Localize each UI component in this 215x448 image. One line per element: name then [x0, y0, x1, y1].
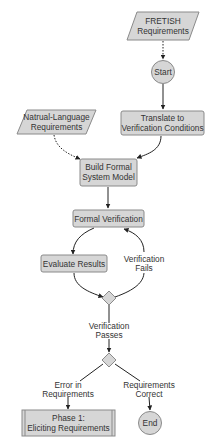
node-phase1-eliciting-requirements[interactable]: Phase 1: Eliciting Requirements: [22, 410, 115, 436]
edge-label-verification-passes: Verification Passes: [89, 321, 130, 340]
node-evaluate-results[interactable]: Evaluate Results: [41, 255, 107, 272]
error-in-requirements-line2: Requirements: [42, 389, 94, 399]
phase1-line2: Eliciting Requirements: [27, 423, 110, 433]
edge-formal-verification-to-evaluate: [73, 228, 94, 254]
end-label: End: [143, 418, 158, 428]
node-fretish-requirements[interactable]: FRETISH Requirements: [127, 12, 199, 40]
decision-diamond-1[interactable]: [102, 291, 116, 305]
edge-translate-to-build-model: [137, 136, 161, 158]
natural-language-line1: Natrual-Language: [23, 112, 90, 122]
phase1-line1: Phase 1:: [52, 413, 85, 423]
natural-language-line2: Requirements: [31, 122, 83, 132]
evaluate-results-label: Evaluate Results: [43, 259, 105, 269]
edge-label-requirements-correct: Requirements Correct: [123, 380, 175, 399]
edge-label-error-in-requirements: Error in Requirements: [42, 380, 94, 399]
edge-decision-2-to-error: [80, 364, 103, 381]
verification-passes-line2: Passes: [95, 330, 122, 340]
requirements-correct-line2: Correct: [135, 389, 163, 399]
formal-verification-label: Formal Verification: [74, 214, 143, 224]
edge-natural-language-to-build-model: [54, 135, 80, 159]
start-label: Start: [154, 67, 172, 77]
node-natural-language-requirements[interactable]: Natrual-Language Requirements: [17, 110, 96, 134]
edge-label-verification-fails: Verification Fails: [124, 254, 165, 273]
translate-line1: Translate to: [141, 113, 185, 123]
node-formal-verification[interactable]: Formal Verification: [73, 210, 144, 227]
node-start[interactable]: Start: [152, 61, 175, 84]
fretish-line1: FRETISH: [145, 16, 181, 26]
flowchart-canvas: FRETISH Requirements Start Translate to …: [0, 0, 215, 448]
node-build-formal-system-model[interactable]: Build Formal System Model: [80, 159, 137, 186]
fretish-line2: Requirements: [137, 26, 189, 36]
edge-decision-2-to-correct: [115, 364, 140, 381]
verification-fails-line2: Fails: [135, 263, 153, 273]
decision-diamond-2[interactable]: [102, 353, 116, 367]
node-end[interactable]: End: [139, 412, 162, 435]
edge-evaluate-to-decision-1: [74, 273, 103, 297]
build-model-line1: Build Formal: [85, 162, 132, 172]
translate-line2: Verification Conditions: [121, 123, 203, 133]
node-translate[interactable]: Translate to Verification Conditions: [121, 111, 204, 135]
build-model-line2: System Model: [82, 172, 135, 182]
